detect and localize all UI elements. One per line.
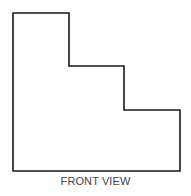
stepped-outline (13, 13, 180, 171)
front-view-drawing (0, 0, 191, 196)
view-caption: FRONT VIEW (0, 175, 191, 187)
